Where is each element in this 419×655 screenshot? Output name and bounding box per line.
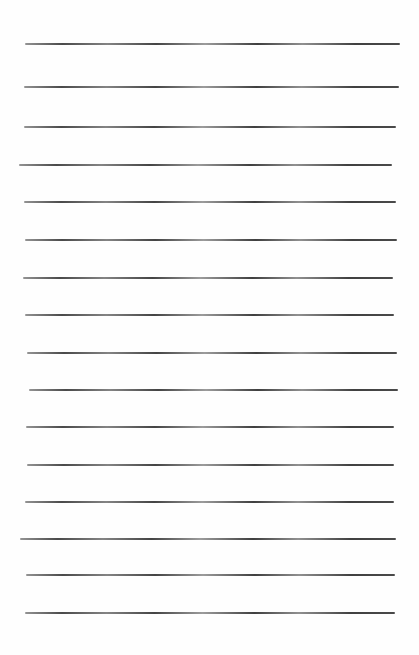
ruled-line bbox=[24, 201, 396, 203]
ruled-line bbox=[29, 389, 398, 391]
ruled-line bbox=[19, 164, 392, 166]
ruled-line bbox=[26, 574, 395, 576]
ruled-line bbox=[25, 314, 394, 316]
ruled-line bbox=[26, 426, 394, 428]
ruled-line bbox=[25, 239, 397, 241]
ruled-line bbox=[27, 464, 394, 466]
ruled-line bbox=[27, 352, 397, 354]
ruled-line bbox=[25, 43, 400, 45]
ruled-line bbox=[24, 86, 399, 88]
ruled-line bbox=[25, 501, 394, 503]
ruled-line bbox=[20, 538, 396, 540]
ruled-line bbox=[23, 277, 393, 279]
ruled-line bbox=[25, 612, 395, 614]
lined-paper-page bbox=[0, 0, 419, 655]
ruled-line bbox=[24, 126, 396, 128]
